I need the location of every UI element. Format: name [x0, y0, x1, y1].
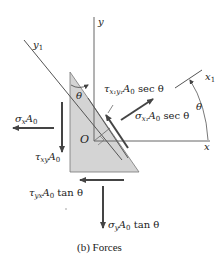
x1-label: x1	[205, 71, 215, 84]
theta-arc-label: θ	[196, 101, 202, 112]
stress-element-forces-diagram: θ x1 θ y x y1 O σxA0 τxyA0 τyxA0 tan θ σ…	[0, 0, 222, 265]
tau-x1y1-leader	[108, 105, 113, 113]
y1-axis-label: y1	[32, 39, 43, 52]
stray-dot	[65, 208, 67, 210]
tau-x1y1-label: τx₁y₁A0 sec θ	[104, 83, 164, 96]
sigma-x-label: σxA0	[15, 113, 37, 126]
origin-label: O	[80, 133, 89, 146]
x-axis-label: x	[204, 141, 210, 152]
x1-axis	[175, 70, 202, 88]
figure-caption: (b) Forces	[77, 241, 122, 254]
tau-xy-label: τxyA0	[35, 151, 60, 164]
y-axis-label: y	[97, 16, 104, 27]
sigma-x1-label: σx₁A0 sec θ	[135, 110, 189, 123]
tau-yx-label: τyxA0 tan θ	[29, 187, 83, 200]
sigma-y-label: σyA0 tan θ	[108, 219, 159, 232]
theta-top-label: θ	[76, 90, 82, 101]
